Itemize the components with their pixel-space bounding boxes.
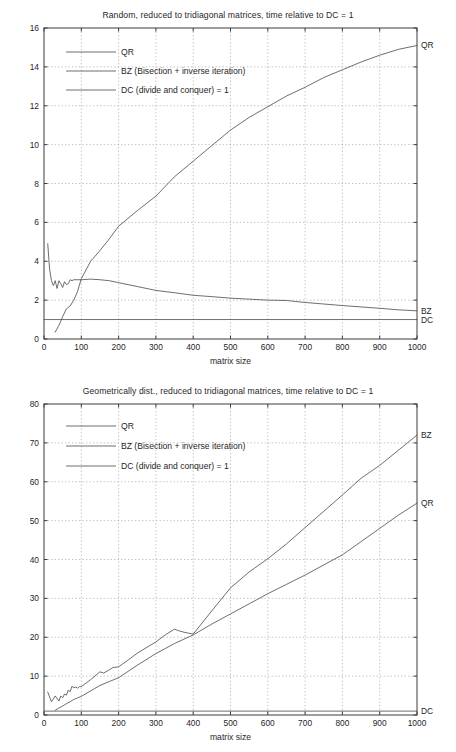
plot-area-random: 0100200300400500600700800900100002468101… — [0, 0, 456, 376]
figure-random: Random, reduced to tridiagonal matrices,… — [0, 0, 456, 376]
x-tick-label: 900 — [373, 342, 387, 352]
plot-area-geometric: 0100200300400500600700800900100001020304… — [0, 376, 456, 752]
x-axis-title: matrix size — [210, 356, 251, 366]
y-tick-label: 2 — [34, 295, 39, 305]
legend-label-bz: BZ (Bisection + inverse iteration) — [121, 441, 246, 451]
x-tick-label: 400 — [186, 718, 200, 728]
x-tick-label: 300 — [149, 718, 163, 728]
x-tick-label: 200 — [112, 342, 126, 352]
x-tick-label: 800 — [335, 342, 349, 352]
x-tick-label: 0 — [42, 718, 47, 728]
series-line-bz — [48, 435, 417, 702]
series-line-qr — [55, 45, 417, 332]
y-tick-label: 50 — [30, 516, 40, 526]
x-tick-label: 700 — [298, 342, 312, 352]
y-tick-label: 14 — [30, 62, 40, 72]
end-label-bz: BZ — [421, 430, 432, 440]
legend-label-dc: DC (divide and conquer) = 1 — [121, 85, 229, 95]
end-label-dc: DC — [421, 315, 433, 325]
y-tick-label: 10 — [30, 140, 40, 150]
legend-label-qr: QR — [121, 47, 134, 57]
y-tick-label: 12 — [30, 101, 40, 111]
legend-label-dc: DC (divide and conquer) = 1 — [121, 461, 229, 471]
x-tick-label: 1000 — [408, 342, 427, 352]
y-tick-label: 6 — [34, 217, 39, 227]
legend-label-qr: QR — [121, 421, 134, 431]
y-tick-label: 8 — [34, 179, 39, 189]
x-tick-label: 400 — [186, 342, 200, 352]
x-tick-label: 1000 — [408, 718, 427, 728]
series-line-bz — [48, 244, 417, 311]
chart-svg-geometric: 0100200300400500600700800900100001020304… — [0, 376, 456, 752]
x-tick-label: 800 — [335, 718, 349, 728]
x-tick-label: 600 — [261, 342, 275, 352]
chart-svg-random: 0100200300400500600700800900100002468101… — [0, 0, 456, 376]
x-tick-label: 100 — [74, 342, 88, 352]
x-tick-label: 500 — [224, 718, 238, 728]
series-line-qr — [55, 503, 417, 710]
x-axis-title: matrix size — [210, 732, 251, 742]
y-tick-label: 20 — [30, 632, 40, 642]
end-label-qr: QR — [421, 40, 434, 50]
x-tick-label: 100 — [74, 718, 88, 728]
y-tick-label: 0 — [34, 334, 39, 344]
y-tick-label: 10 — [30, 671, 40, 681]
end-label-qr: QR — [421, 498, 434, 508]
x-tick-label: 600 — [261, 718, 275, 728]
end-label-dc: DC — [421, 706, 433, 716]
y-tick-label: 30 — [30, 593, 40, 603]
y-tick-label: 70 — [30, 438, 40, 448]
y-tick-label: 4 — [34, 256, 39, 266]
y-tick-label: 80 — [30, 399, 40, 409]
x-tick-label: 300 — [149, 342, 163, 352]
y-tick-label: 60 — [30, 477, 40, 487]
figure-geometric: Geometrically dist., reduced to tridiago… — [0, 376, 456, 752]
y-tick-label: 0 — [34, 710, 39, 720]
x-tick-label: 900 — [373, 718, 387, 728]
y-tick-label: 16 — [30, 23, 40, 33]
x-tick-label: 700 — [298, 718, 312, 728]
x-tick-label: 500 — [224, 342, 238, 352]
x-tick-label: 0 — [42, 342, 47, 352]
legend-label-bz: BZ (Bisection + inverse iteration) — [121, 66, 246, 76]
y-tick-label: 40 — [30, 555, 40, 565]
x-tick-label: 200 — [112, 718, 126, 728]
